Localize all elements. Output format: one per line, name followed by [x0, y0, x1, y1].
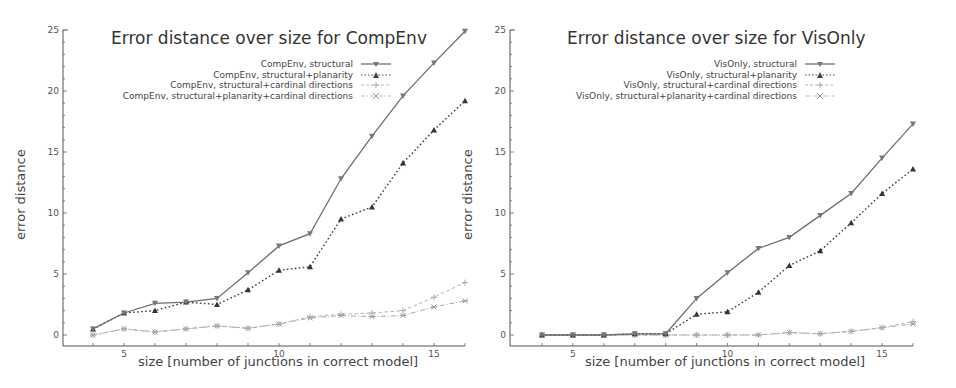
data-point-marker	[786, 262, 792, 268]
svg-text:20: 20	[495, 86, 507, 96]
data-point-marker	[245, 287, 251, 293]
data-point-marker	[400, 313, 406, 318]
data-point-marker	[431, 294, 437, 300]
legend-item: CompEnv, structural+planarity+cardinal d…	[123, 91, 391, 102]
legend-line-dashed-icon	[361, 81, 391, 89]
data-point-marker	[338, 311, 344, 317]
svg-text:15: 15	[48, 147, 59, 157]
series-line	[542, 124, 913, 335]
data-point-marker	[694, 311, 700, 317]
svg-text:5: 5	[500, 269, 506, 279]
chart-compenv: 051015202551015 Error distance over size…	[0, 0, 478, 388]
data-point-marker	[848, 220, 854, 226]
svg-text:0: 0	[53, 330, 59, 340]
y-axis-label: error distance	[13, 149, 28, 240]
data-point-marker	[462, 98, 468, 104]
data-point-marker	[462, 280, 468, 286]
data-point-marker	[400, 160, 406, 166]
svg-text:10: 10	[495, 208, 507, 218]
chart-title: Error distance over size for VisOnly	[567, 28, 866, 48]
legend-line-solid-icon	[805, 60, 835, 68]
chart-legend: CompEnv, structural CompEnv, structural+…	[123, 59, 391, 101]
svg-text:15: 15	[495, 147, 506, 157]
svg-text:5: 5	[53, 269, 59, 279]
data-point-marker	[338, 216, 344, 222]
data-point-marker	[276, 267, 282, 273]
legend-line-dotted-icon	[361, 71, 391, 79]
svg-text:25: 25	[495, 25, 506, 35]
data-point-marker	[910, 166, 916, 172]
legend-line-dashdot-icon	[805, 92, 835, 100]
series-line	[93, 101, 465, 329]
svg-text:10: 10	[48, 208, 60, 218]
legend-line-dashdot-icon	[361, 92, 391, 100]
data-point-marker	[817, 248, 823, 254]
svg-text:20: 20	[48, 86, 60, 96]
data-point-marker	[879, 190, 885, 196]
svg-text:5: 5	[570, 349, 576, 359]
svg-text:5: 5	[121, 349, 127, 359]
data-point-marker	[431, 304, 437, 309]
svg-text:15: 15	[428, 349, 439, 359]
svg-text:0: 0	[500, 330, 506, 340]
chart-visonly: 051015202551015 Error distance over size…	[478, 0, 956, 388]
svg-text:25: 25	[48, 25, 59, 35]
x-axis-label: size [number of junctions in correct mod…	[138, 354, 418, 369]
y-axis-label: error distance	[460, 149, 475, 240]
data-point-marker	[462, 298, 468, 303]
legend-item: VisOnly, structural+planarity	[576, 70, 835, 81]
data-point-marker	[214, 302, 220, 308]
svg-text:15: 15	[876, 349, 887, 359]
series-line	[93, 283, 465, 336]
data-point-marker	[431, 127, 437, 132]
legend-line-dashed-icon	[805, 81, 835, 89]
legend-item: VisOnly, structural+planarity+cardinal d…	[576, 91, 835, 102]
data-point-marker	[307, 314, 313, 320]
x-axis-label: size [number of junctions in correct mod…	[585, 354, 865, 369]
legend-line-dotted-icon	[805, 71, 835, 79]
data-point-marker	[755, 289, 761, 295]
legend-item: CompEnv, structural+planarity	[123, 70, 391, 81]
data-point-marker	[338, 176, 344, 182]
chart-title: Error distance over size for CompEnv	[111, 28, 427, 48]
chart-legend: VisOnly, structural VisOnly, structural+…	[576, 59, 835, 101]
series-line	[93, 301, 465, 335]
legend-item: VisOnly, structural+cardinal directions	[576, 80, 835, 91]
legend-item: CompEnv, structural+cardinal directions	[123, 80, 391, 91]
legend-item: CompEnv, structural	[123, 59, 391, 70]
legend-item: VisOnly, structural	[576, 59, 835, 70]
legend-line-solid-icon	[361, 60, 391, 68]
